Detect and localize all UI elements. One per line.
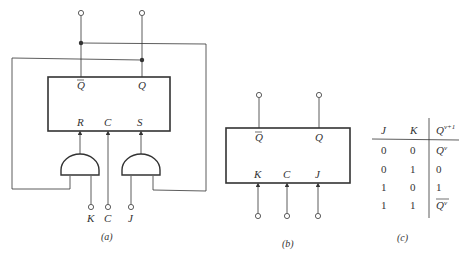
- and-gate-j: [122, 154, 160, 175]
- qbar-output-terminal: [78, 10, 83, 15]
- caption-c: (c): [397, 232, 409, 244]
- table-row: 1 0 1: [381, 181, 442, 193]
- and-gate-k: [61, 154, 99, 175]
- svg-text:1: 1: [410, 163, 416, 175]
- b-j-input-terminal: [315, 213, 320, 218]
- table-row: 0 0 Qv: [381, 144, 448, 156]
- svg-text:1: 1: [381, 199, 387, 211]
- b-c-label: C: [283, 168, 291, 180]
- b-qbar-label: Q: [255, 131, 263, 143]
- b-q-output-terminal: [316, 92, 321, 97]
- a-q-label: Q: [138, 79, 146, 91]
- header-j: J: [381, 124, 387, 136]
- diagram-b: [226, 92, 350, 218]
- svg-text:1: 1: [436, 181, 442, 193]
- svg-text:1: 1: [381, 181, 387, 193]
- b-c-input-terminal: [284, 213, 289, 218]
- b-k-input-terminal: [255, 213, 260, 218]
- table-row: 1 1 Qv: [381, 199, 449, 211]
- a-r-label: R: [76, 116, 84, 128]
- b-j-label: J: [315, 168, 321, 180]
- b-k-label: K: [253, 168, 262, 180]
- svg-text:0: 0: [410, 144, 416, 156]
- caption-a: (a): [101, 231, 113, 243]
- diagram-a-labels: Q Q R C S K C J (a): [76, 79, 146, 243]
- j-input-terminal: [128, 204, 133, 209]
- k-input-terminal: [88, 204, 93, 209]
- svg-text:0: 0: [436, 163, 442, 175]
- svg-text:0: 0: [410, 181, 416, 193]
- qbar-feedback-wire: [81, 43, 206, 191]
- table-row: 0 1 0: [381, 163, 442, 175]
- header-k: K: [409, 124, 418, 136]
- b-qbar-output-terminal: [256, 92, 261, 97]
- jk-flipflop-figure: Q Q R C S K C J (a) Q Q K C J (b) J: [0, 0, 468, 254]
- svg-text:0: 0: [381, 163, 387, 175]
- c-input-terminal: [105, 204, 110, 209]
- truth-table: J K Qv+1 0 0 Qv 0 1 0 1 0 1 1 1 Qv (c): [372, 118, 459, 244]
- diagram-a: [12, 10, 206, 209]
- svg-text:Qv: Qv: [436, 144, 448, 156]
- a-c-input-label: C: [104, 212, 112, 224]
- b-q-label: Q: [315, 131, 323, 143]
- a-c-label: C: [104, 116, 112, 128]
- a-j-input-label: J: [128, 212, 134, 224]
- diagram-b-labels: Q Q K C J (b): [253, 131, 323, 250]
- q-output-terminal: [139, 10, 144, 15]
- svg-text:Qv: Qv: [436, 199, 448, 211]
- a-qbar-label: Q: [77, 79, 85, 91]
- caption-b: (b): [282, 238, 294, 250]
- header-q-next: Qv+1: [436, 123, 455, 136]
- svg-text:0: 0: [381, 144, 387, 156]
- svg-text:1: 1: [410, 199, 416, 211]
- a-k-input-label: K: [86, 212, 95, 224]
- a-s-label: S: [137, 116, 143, 128]
